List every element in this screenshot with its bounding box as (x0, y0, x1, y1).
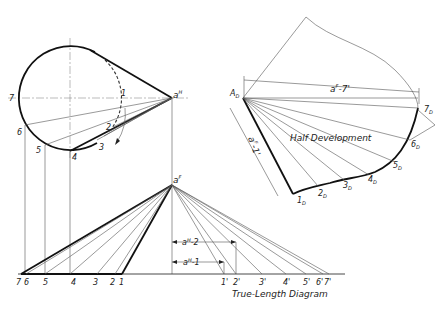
half-development: aF-7' aF-1' AD 1D 2D 3D 4D 5D 6D 7D Half… (229, 17, 435, 206)
origin-label: AD (229, 89, 239, 99)
development-curve (293, 108, 418, 194)
top-view: 7 6 5 4 3 2 1 aH (8, 38, 190, 162)
tl-7: 7' (324, 278, 331, 287)
arrow-icon (115, 138, 120, 145)
dim-af-7: aF-7' (330, 83, 350, 94)
right-edge (122, 185, 172, 274)
dev-3d: 3D (343, 181, 352, 191)
tl-6: 6' (316, 278, 323, 287)
dim-af-1: aF-1' (246, 135, 263, 157)
other-half-outline (243, 17, 418, 108)
pt-2: 2 (106, 123, 111, 132)
dev-1d: 1D (297, 196, 306, 206)
dev-6d: 6D (411, 140, 420, 150)
fv-4: 4 (71, 278, 76, 287)
element-5 (45, 98, 172, 145)
left-edge (21, 185, 172, 274)
fv-5: 5 (43, 278, 48, 287)
apex-f-label: aF (173, 174, 182, 185)
element-6 (25, 98, 172, 125)
projectors (25, 98, 172, 274)
dev-4d: 4D (368, 175, 377, 185)
fv-3: 3 (93, 278, 98, 287)
pt-7: 7 (9, 94, 15, 103)
tl-2: 2' (233, 278, 240, 287)
pt-3: 3 (99, 143, 104, 152)
tl-5: 5' (303, 278, 310, 287)
element-2b (104, 98, 172, 136)
dev-5d: 5D (393, 161, 402, 171)
tl-1: 1' (221, 278, 228, 287)
dim-ah-2: aH-2 (182, 237, 199, 247)
apex-h-label: aH (173, 89, 183, 100)
upper-tangent (90, 50, 172, 98)
fv-6: 6 (24, 278, 29, 287)
pt-1: 1 (121, 89, 126, 98)
fv-1: 1 (119, 278, 124, 287)
dev-7d: 7D (424, 105, 433, 115)
pt-5: 5 (36, 146, 41, 155)
fv-2: 2 (110, 278, 115, 287)
pt-4: 4 (72, 153, 77, 162)
true-length-diagram: aH-2 aH-1 1' 2' 3' 4' 5' 6' 7' True-Leng… (172, 185, 331, 299)
tl-3: 3' (259, 278, 266, 287)
half-development-title: Half Development (290, 133, 372, 143)
dim-ah-1: aH-1 (183, 257, 200, 267)
pt-6: 6 (17, 128, 22, 137)
tl-4: 4' (283, 278, 290, 287)
dev-2d: 2D (318, 189, 327, 199)
fv-7: 7 (16, 278, 22, 287)
oblique-cone-development-drawing: 7 6 5 4 3 2 1 aH aF 7 6 5 4 3 2 1 (0, 0, 448, 309)
true-length-title: True-Length Diagram (232, 289, 328, 299)
